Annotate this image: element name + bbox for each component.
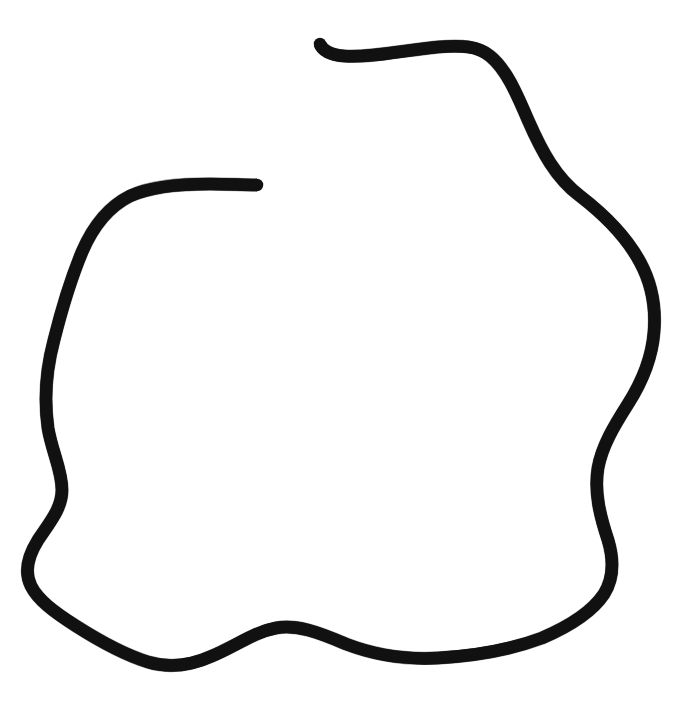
drawing-canvas: A large hand-drawn black outline of an i… bbox=[0, 0, 696, 714]
ink-drawing-svg bbox=[0, 0, 696, 714]
stroke-endpoint-blunt-end bbox=[251, 179, 264, 192]
stroke-endpoint-hooked-end bbox=[314, 38, 327, 51]
